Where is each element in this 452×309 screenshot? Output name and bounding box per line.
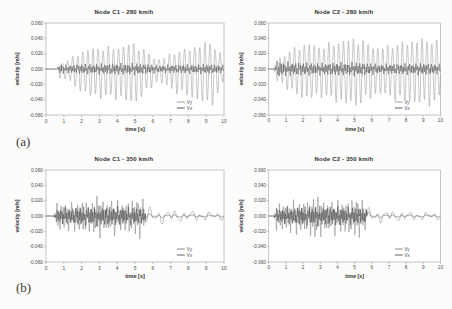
svg-text:2: 2	[302, 265, 305, 270]
svg-text:4: 4	[336, 265, 339, 270]
svg-text:time [s]: time [s]	[125, 273, 145, 279]
chart-plot-area: 0.0600.0400.0200.000-0.020-0.040-0.06001…	[236, 17, 452, 143]
svg-text:0: 0	[267, 265, 270, 270]
svg-text:-0.020: -0.020	[29, 82, 43, 87]
svg-text:6: 6	[370, 118, 373, 123]
svg-text:Vx: Vx	[405, 253, 411, 258]
svg-text:1: 1	[62, 266, 65, 271]
svg-text:0.020: 0.020	[31, 51, 43, 56]
svg-text:-0.020: -0.020	[253, 82, 266, 87]
svg-text:0: 0	[45, 119, 48, 124]
svg-text:10: 10	[221, 119, 227, 124]
svg-text:Vx: Vx	[187, 253, 193, 258]
svg-text:4: 4	[336, 118, 339, 123]
svg-text:6: 6	[151, 119, 154, 124]
svg-text:0.040: 0.040	[254, 36, 266, 41]
svg-text:0.060: 0.060	[31, 168, 43, 173]
figure-label-b: (b)	[16, 280, 31, 296]
svg-text:0.040: 0.040	[31, 36, 43, 41]
svg-text:0.000: 0.000	[31, 214, 43, 219]
svg-text:Vy: Vy	[405, 100, 411, 105]
chart-node-c1-280: Node C1 - 280 km/h 0.0600.0400.0200.000-…	[12, 8, 236, 143]
svg-text:2: 2	[80, 266, 83, 271]
svg-text:1: 1	[62, 119, 65, 124]
svg-text:1: 1	[285, 118, 288, 123]
svg-text:3: 3	[319, 265, 322, 270]
svg-text:0.060: 0.060	[254, 21, 266, 26]
svg-text:0: 0	[267, 118, 270, 123]
svg-text:6: 6	[370, 265, 373, 270]
svg-text:0.020: 0.020	[254, 198, 266, 203]
svg-text:1: 1	[285, 265, 288, 270]
svg-text:-0.060: -0.060	[253, 113, 266, 118]
svg-text:0.040: 0.040	[31, 183, 43, 188]
svg-text:5: 5	[353, 265, 356, 270]
svg-text:-0.060: -0.060	[29, 113, 43, 118]
chart-title: Node C2 - 350 km/h	[236, 155, 452, 164]
svg-text:9: 9	[205, 266, 208, 271]
svg-text:0.000: 0.000	[31, 67, 43, 72]
svg-text:velocity [m/s]: velocity [m/s]	[238, 52, 244, 85]
svg-text:8: 8	[405, 118, 408, 123]
svg-text:time [s]: time [s]	[125, 126, 145, 132]
svg-text:3: 3	[98, 119, 101, 124]
svg-text:Vy: Vy	[187, 247, 193, 252]
chart-title: Node C1 - 350 km/h	[12, 155, 236, 164]
svg-text:5: 5	[134, 119, 137, 124]
svg-text:Vx: Vx	[405, 106, 411, 111]
svg-text:4: 4	[116, 119, 119, 124]
svg-text:-0.020: -0.020	[29, 229, 43, 234]
svg-text:-0.040: -0.040	[29, 244, 43, 249]
svg-text:7: 7	[388, 118, 391, 123]
svg-text:0.020: 0.020	[31, 198, 43, 203]
svg-text:-0.040: -0.040	[253, 97, 266, 102]
chart-plot-area: 0.0600.0400.0200.000-0.020-0.040-0.06001…	[12, 164, 236, 290]
chart-plot-area: 0.0600.0400.0200.000-0.020-0.040-0.06001…	[12, 17, 236, 143]
chart-title: Node C1 - 280 km/h	[12, 8, 236, 17]
svg-text:2: 2	[80, 119, 83, 124]
svg-text:3: 3	[98, 266, 101, 271]
svg-text:9: 9	[205, 119, 208, 124]
svg-text:10: 10	[438, 118, 444, 123]
svg-text:10: 10	[438, 265, 444, 270]
chart-node-c2-350: Node C2 - 350 km/h 0.0600.0400.0200.000-…	[236, 155, 452, 290]
svg-text:velocity [m/s]: velocity [m/s]	[14, 52, 20, 85]
svg-text:Vx: Vx	[187, 106, 193, 111]
svg-text:3: 3	[319, 118, 322, 123]
svg-text:8: 8	[405, 265, 408, 270]
svg-text:9: 9	[422, 265, 425, 270]
svg-text:velocity [m/s]: velocity [m/s]	[238, 199, 244, 232]
svg-text:Vy: Vy	[405, 247, 411, 252]
svg-text:8: 8	[187, 266, 190, 271]
chart-plot-area: 0.0600.0400.0200.000-0.020-0.040-0.06001…	[236, 164, 452, 290]
svg-text:5: 5	[353, 118, 356, 123]
svg-text:0.060: 0.060	[254, 168, 266, 173]
svg-text:Vy: Vy	[187, 100, 193, 105]
svg-text:7: 7	[169, 119, 172, 124]
svg-text:5: 5	[134, 266, 137, 271]
svg-text:0.000: 0.000	[254, 67, 266, 72]
svg-text:9: 9	[422, 118, 425, 123]
svg-text:10: 10	[221, 266, 227, 271]
svg-text:-0.020: -0.020	[253, 229, 266, 234]
svg-text:-0.060: -0.060	[29, 260, 43, 265]
svg-text:0.060: 0.060	[31, 21, 43, 26]
svg-text:time [s]: time [s]	[345, 126, 364, 132]
svg-text:0: 0	[45, 266, 48, 271]
svg-text:0.020: 0.020	[254, 51, 266, 56]
svg-text:4: 4	[116, 266, 119, 271]
chart-node-c1-350: Node C1 - 350 km/h 0.0600.0400.0200.000-…	[12, 155, 236, 290]
svg-text:0.040: 0.040	[254, 183, 266, 188]
svg-text:2: 2	[302, 118, 305, 123]
chart-node-c2-280: Node C2 - 280 km/h 0.0600.0400.0200.000-…	[236, 8, 452, 143]
svg-text:-0.060: -0.060	[253, 260, 266, 265]
chart-title: Node C2 - 280 km/h	[236, 8, 452, 17]
svg-text:-0.040: -0.040	[29, 97, 43, 102]
svg-text:-0.040: -0.040	[253, 244, 266, 249]
figure-label-a: (a)	[16, 134, 30, 150]
svg-text:time [s]: time [s]	[345, 273, 364, 279]
svg-text:6: 6	[151, 266, 154, 271]
svg-text:7: 7	[169, 266, 172, 271]
svg-text:8: 8	[187, 119, 190, 124]
svg-text:0.000: 0.000	[254, 214, 266, 219]
